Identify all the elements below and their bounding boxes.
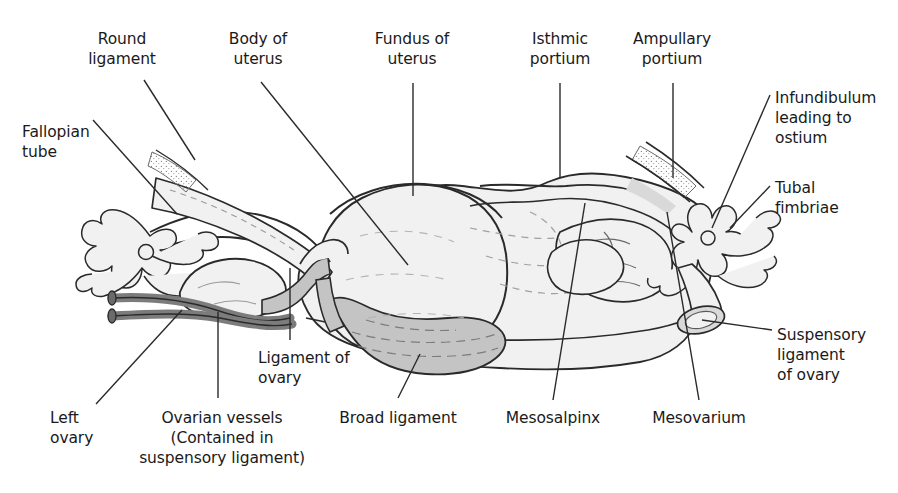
right-ostium <box>701 231 715 245</box>
label-ampullary-portium: Ampullary portium <box>633 29 711 69</box>
label-round-ligament: Round ligament <box>88 29 156 69</box>
left-ostium <box>139 245 154 260</box>
label-ligament-of-ovary: Ligament of ovary <box>258 348 350 388</box>
anatomy-diagram: Round ligament Body of uterus Fundus of … <box>0 0 898 493</box>
label-body-of-uterus: Body of uterus <box>229 29 287 69</box>
label-fundus-of-uterus: Fundus of uterus <box>375 29 449 69</box>
round-ligament-leader <box>144 80 195 160</box>
label-isthmic-portium: Isthmic portium <box>530 29 590 69</box>
label-broad-ligament: Broad ligament <box>339 408 457 428</box>
label-infundibulum-leading-to-ostium: Infundibulum leading to ostium <box>775 88 876 148</box>
label-mesovarium: Mesovarium <box>652 408 746 428</box>
label-ovarian-vessels: Ovarian vessels (Contained in suspensory… <box>139 408 305 468</box>
label-suspensory-ligament-of-ovary: Suspensory ligament of ovary <box>777 325 866 385</box>
label-mesosalpinx: Mesosalpinx <box>506 408 600 428</box>
right-ovary <box>548 240 624 294</box>
label-left-ovary: Left ovary <box>50 408 93 448</box>
left-ovary-leader <box>96 310 182 404</box>
infundibulum-leader <box>712 95 770 228</box>
label-tubal-fimbriae: Tubal fimbriae <box>775 178 839 218</box>
label-fallopian-tube: Fallopian tube <box>22 122 90 162</box>
